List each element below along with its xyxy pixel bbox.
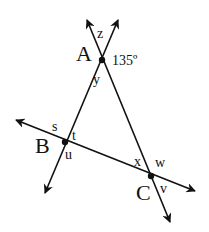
- angle-label-t: t: [72, 128, 76, 143]
- angle-label-v: v: [160, 181, 167, 196]
- line-ac: [87, 20, 170, 222]
- angle-label-135: 135º: [112, 53, 138, 68]
- angle-label-z: z: [97, 26, 103, 41]
- angle-label-x: x: [134, 154, 141, 169]
- vertex-label-a: A: [76, 41, 92, 66]
- angle-label-u: u: [65, 147, 72, 162]
- angle-label-y: y: [93, 72, 100, 87]
- point-b-dot: [62, 139, 68, 145]
- vertex-label-b: B: [35, 133, 50, 158]
- vertex-label-c: C: [136, 180, 151, 205]
- angle-label-w: w: [155, 155, 166, 170]
- diagram-svg: A B C z 135º y s t u x w v: [0, 0, 209, 232]
- angle-label-s: s: [52, 119, 57, 134]
- point-c-dot: [148, 173, 154, 179]
- geometry-diagram: A B C z 135º y s t u x w v: [0, 0, 209, 232]
- point-a-dot: [99, 57, 105, 63]
